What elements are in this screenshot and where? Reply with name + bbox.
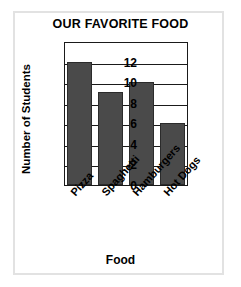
x-axis-title: Food	[0, 253, 241, 267]
y-tick-label-4: 4	[113, 139, 137, 151]
y-tick-label-10: 10	[113, 77, 137, 89]
bar-pizza[interactable]	[67, 62, 92, 185]
chart-title: OUR FAVORITE FOOD	[0, 17, 241, 31]
y-axis-title: Number of Students	[20, 44, 32, 194]
y-tick-label-6: 6	[113, 118, 137, 130]
y-tick-label-12: 12	[113, 57, 137, 69]
y-tick-label-8: 8	[113, 98, 137, 110]
